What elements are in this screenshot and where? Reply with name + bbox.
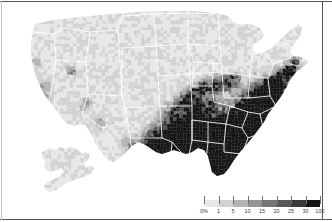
county-polygon <box>89 133 93 138</box>
county-polygon <box>261 17 264 20</box>
county-polygon <box>305 20 310 24</box>
county-polygon <box>44 127 48 131</box>
county-polygon <box>302 140 306 143</box>
county-polygon <box>286 175 290 179</box>
county-polygon <box>78 192 82 196</box>
county-polygon <box>273 178 276 182</box>
county-polygon <box>186 8 189 11</box>
county-polygon <box>41 188 44 192</box>
county-polygon <box>57 137 60 141</box>
county-polygon <box>37 156 42 161</box>
county-polygon <box>273 17 276 22</box>
county-polygon <box>93 104 97 108</box>
county-polygon <box>270 149 274 153</box>
county-polygon <box>150 157 153 161</box>
county-polygon <box>47 107 51 111</box>
county-polygon <box>38 133 41 137</box>
county-polygon <box>79 134 83 137</box>
county-polygon <box>38 149 41 154</box>
county-polygon <box>270 131 274 134</box>
county-polygon <box>199 176 203 178</box>
county-polygon <box>153 162 157 166</box>
county-polygon <box>31 12 35 15</box>
county-polygon <box>31 108 34 112</box>
county-polygon <box>308 130 312 134</box>
county-polygon <box>54 143 58 147</box>
county-polygon <box>242 14 245 18</box>
county-polygon <box>254 60 257 64</box>
county-polygon <box>63 137 68 141</box>
county-polygon <box>219 172 222 176</box>
county-polygon <box>290 114 293 118</box>
county-polygon <box>276 104 280 108</box>
county-polygon <box>286 124 290 128</box>
county-polygon <box>38 172 41 175</box>
county-polygon <box>28 137 32 140</box>
county-polygon <box>269 37 274 41</box>
county-polygon <box>64 127 66 131</box>
county-polygon <box>170 8 174 11</box>
county-polygon <box>209 179 212 182</box>
county-polygon <box>221 33 225 37</box>
county-polygon <box>263 159 267 162</box>
county-polygon <box>251 162 255 166</box>
county-polygon <box>273 34 277 37</box>
county-polygon <box>186 89 190 92</box>
county-polygon <box>28 17 32 21</box>
county-polygon <box>234 178 238 182</box>
county-polygon <box>41 101 45 105</box>
county-polygon <box>135 169 139 173</box>
county-polygon <box>35 153 39 156</box>
county-polygon <box>147 24 151 27</box>
county-polygon <box>45 130 48 134</box>
county-polygon <box>61 124 65 128</box>
county-polygon <box>283 14 287 18</box>
county-polygon <box>293 136 296 141</box>
county-polygon <box>279 17 284 22</box>
county-polygon <box>293 178 296 182</box>
county-polygon <box>173 69 176 73</box>
county-polygon <box>253 43 258 48</box>
county-polygon <box>280 146 284 150</box>
county-polygon <box>44 163 48 166</box>
county-polygon <box>140 149 144 154</box>
county-polygon <box>306 46 310 50</box>
county-polygon <box>186 178 189 182</box>
county-polygon <box>86 8 89 11</box>
county-polygon <box>305 140 309 144</box>
county-polygon <box>177 156 180 160</box>
county-polygon <box>160 176 164 179</box>
county-polygon <box>28 156 31 159</box>
county-polygon <box>164 162 168 166</box>
legend-tick <box>248 196 249 204</box>
county-polygon <box>302 159 306 163</box>
county-polygon <box>292 165 296 169</box>
county-polygon <box>250 144 254 148</box>
county-polygon <box>56 121 60 125</box>
county-polygon <box>224 176 228 180</box>
county-polygon <box>60 127 65 130</box>
county-polygon <box>137 143 141 147</box>
county-polygon <box>151 166 154 170</box>
county-polygon <box>144 149 147 154</box>
county-polygon <box>224 172 228 176</box>
county-polygon <box>112 153 116 157</box>
county-polygon <box>53 108 57 112</box>
county-polygon <box>270 17 274 21</box>
county-polygon <box>131 176 135 180</box>
county-polygon <box>287 144 290 148</box>
county-polygon <box>118 136 122 139</box>
county-polygon <box>263 28 267 32</box>
county-polygon <box>305 30 309 34</box>
county-polygon <box>44 66 48 69</box>
county-polygon <box>134 156 138 160</box>
county-polygon <box>303 114 306 118</box>
county-polygon <box>54 117 57 121</box>
county-polygon <box>176 162 181 165</box>
county-polygon <box>150 88 154 92</box>
county-polygon <box>270 24 274 28</box>
county-polygon <box>69 127 74 131</box>
county-polygon <box>41 158 46 163</box>
county-polygon <box>295 179 300 182</box>
county-polygon <box>150 66 153 70</box>
